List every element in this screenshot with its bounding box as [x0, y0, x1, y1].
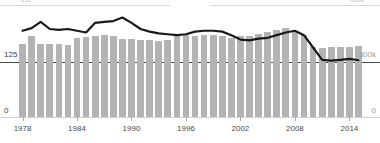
top-rule-right: [210, 5, 380, 6]
x-axis-label: 1984: [68, 124, 86, 133]
axis-right-label-0: 0: [372, 106, 376, 115]
x-axis-label: 2002: [232, 124, 250, 133]
x-axis-tick: [349, 117, 350, 121]
x-axis-label: 1978: [14, 124, 32, 133]
axis-right-top-label: 600k: [350, 0, 364, 3]
axis-right-label-300k: 300k: [359, 50, 376, 59]
top-rule-left: [0, 5, 170, 6]
axis-left-top-label: 250: [21, 0, 32, 3]
line-series: [18, 7, 363, 117]
x-axis-tick: [23, 117, 24, 121]
axis-left-label-125: 125: [4, 50, 17, 59]
x-axis-tick: [240, 117, 241, 121]
plot-area: [18, 7, 363, 117]
x-axis-tick: [131, 117, 132, 121]
axis-left-label-0: 0: [4, 106, 8, 115]
x-axis-label: 2014: [340, 124, 358, 133]
x-axis-label: 1990: [123, 124, 141, 133]
x-axis-tick: [295, 117, 296, 121]
x-axis-label: 1996: [177, 124, 195, 133]
line-path: [23, 18, 359, 61]
x-axis-label: 2008: [286, 124, 304, 133]
x-axis-tick: [77, 117, 78, 121]
x-axis: [0, 117, 380, 118]
x-axis-tick: [186, 117, 187, 121]
chart-container: 250 600k 1978198419901996200220082014 12…: [0, 0, 380, 143]
